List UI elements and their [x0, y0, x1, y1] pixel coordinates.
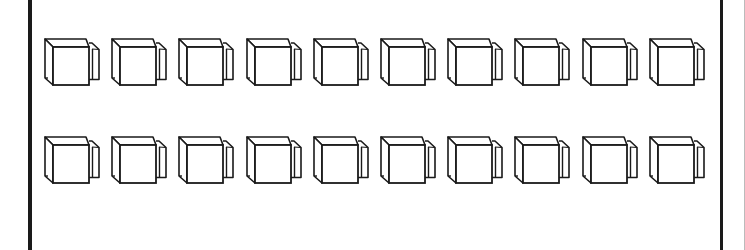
cube-icon	[583, 39, 637, 85]
cube-icon	[247, 137, 301, 183]
cube-icon	[179, 137, 233, 183]
cube-icon	[583, 137, 637, 183]
cube-icon	[448, 39, 502, 85]
cube-icon	[515, 137, 569, 183]
cube-icon	[448, 137, 502, 183]
cube-grid	[0, 0, 745, 250]
cube-icon	[112, 39, 166, 85]
cube-icon	[314, 137, 368, 183]
cube-icon	[45, 137, 99, 183]
cube-icon	[247, 39, 301, 85]
cube-icon	[112, 137, 166, 183]
cube-icon	[515, 39, 569, 85]
cube-icon	[381, 137, 435, 183]
cube-icon	[45, 39, 99, 85]
cube-icon	[381, 39, 435, 85]
cube-icon	[650, 39, 704, 85]
cube-icon	[314, 39, 368, 85]
cube-icon	[179, 39, 233, 85]
cube-icon	[650, 137, 704, 183]
